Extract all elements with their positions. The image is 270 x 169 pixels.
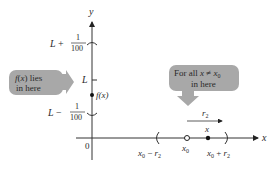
limit-definition-diagram: y x 0 L + 1 100 L L − 1 100 f(x) f(x) li… bbox=[0, 0, 270, 169]
x0-minus-r2-label: x0 − r2 bbox=[137, 148, 161, 159]
radius-label: r2 bbox=[202, 108, 209, 119]
origin-label: 0 bbox=[85, 141, 90, 151]
left-callout-line2: in here bbox=[16, 83, 41, 93]
fx-point bbox=[90, 93, 94, 97]
upper-bound-label: L + bbox=[49, 38, 64, 49]
x0-label: x0 bbox=[181, 143, 189, 154]
y-axis-label: y bbox=[88, 6, 94, 17]
fx-label: f(x) bbox=[96, 90, 109, 100]
upper-bound-num: 1 bbox=[76, 33, 80, 42]
diagram-canvas: y x 0 L + 1 100 L L − 1 100 f(x) f(x) li… bbox=[0, 0, 270, 169]
L-label: L bbox=[81, 74, 88, 85]
lower-bound-label: L − bbox=[47, 107, 62, 118]
lower-bound-den: 100 bbox=[70, 113, 82, 122]
right-callout-line1: For all x ≠ x0 bbox=[174, 68, 220, 79]
lower-bound-num: 1 bbox=[75, 102, 79, 111]
x-point-label: x bbox=[204, 124, 209, 134]
left-callout-line1: f(x) lies bbox=[15, 73, 43, 83]
x-axis-label: x bbox=[261, 132, 267, 143]
x-point bbox=[206, 136, 210, 140]
upper-bound-den: 100 bbox=[71, 44, 83, 53]
right-callout-line2: in here bbox=[191, 79, 216, 89]
x0-plus-r2-label: x0 + r2 bbox=[206, 148, 230, 159]
x0-open-point bbox=[185, 136, 190, 141]
